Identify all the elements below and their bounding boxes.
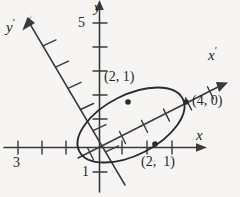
- point-marker-2-neg1: [152, 141, 158, 147]
- y-prime-axis-label: y′: [6, 17, 15, 35]
- y-prime-tick: [56, 61, 69, 67]
- point-label-lower-right: (2, 1): [141, 155, 175, 169]
- prime-symbol: ′: [215, 44, 217, 56]
- point-marker-2-1: [125, 99, 131, 105]
- point-label-upper-left: (2, 1): [104, 70, 134, 84]
- x-axis-label: x: [196, 128, 203, 143]
- y-prime-tick: [43, 40, 56, 46]
- y-prime-tick: [68, 82, 81, 88]
- point-marker-4-0: [183, 99, 189, 105]
- x-prime-tick: [88, 148, 94, 160]
- x-prime-axis-arrowhead: [216, 82, 228, 92]
- x-tick-label-3: 3: [13, 156, 20, 170]
- y-prime-tick: [81, 104, 94, 110]
- x-prime-tick: [164, 109, 170, 121]
- y-prime-axis-line: [30, 24, 125, 185]
- x-prime-tick: [142, 120, 148, 132]
- x-axis-arrowhead: [196, 143, 207, 152]
- y-prime-axis-group: [22, 14, 125, 185]
- ellipse-curve-group: [66, 72, 197, 178]
- y-axis-label: y: [94, 0, 101, 15]
- x-prime-axis-label: x′: [208, 45, 217, 63]
- y-prime-axis-label-text: y: [6, 19, 13, 35]
- y-tick-label-1: 1: [82, 165, 89, 179]
- x-prime-axis-label-text: x: [208, 47, 215, 63]
- ellipse-curve: [66, 72, 197, 178]
- prime-symbol: ′: [13, 16, 15, 28]
- rotated-conic-figure: x y x′ y′ 5 1 3 (2, 1) (4, 0) (2, 1): [0, 0, 240, 197]
- point-label-right: (4, 0): [192, 94, 222, 108]
- y-tick-label-5: 5: [78, 16, 85, 30]
